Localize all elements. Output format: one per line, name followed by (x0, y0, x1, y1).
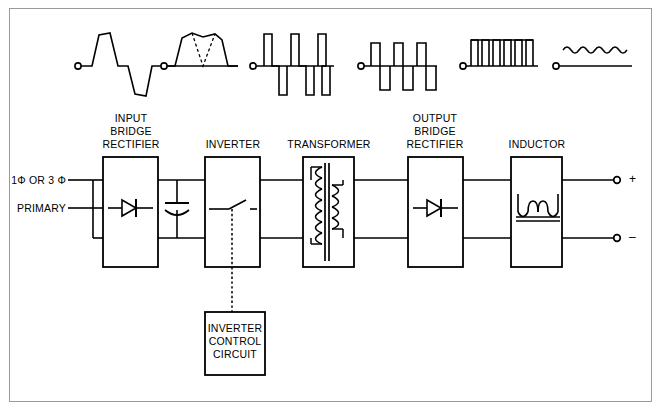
wf-rectified-icon (161, 33, 238, 69)
wf-unipolar-pulses-icon (460, 40, 538, 69)
rectifier-to-inductor-wires (463, 180, 511, 238)
negative-terminal-label: – (629, 231, 649, 243)
transformer-to-output-wires (354, 180, 408, 238)
inverter-label: INVERTER (192, 138, 274, 150)
transformer-block (303, 157, 354, 267)
inverter-control-label-line3: CIRCUIT (205, 348, 265, 360)
input-bridge-rectifier-label-line1: INPUT (90, 112, 172, 124)
input-bridge-rectifier-label-line3: RECTIFIER (90, 138, 172, 150)
inverter-control-label-line1: INVERTER (205, 322, 265, 334)
output-bridge-rectifier-label-line1: OUTPUT (394, 112, 476, 124)
output-terminal-wires (562, 177, 620, 242)
wf-sine-icon (75, 33, 163, 96)
inverter-block (205, 157, 260, 267)
wf-pwm-wide-icon (358, 43, 437, 90)
inductor-label: INDUCTOR (496, 138, 578, 150)
wf-dc-ripple-icon (553, 47, 632, 69)
wf-pwm-narrow-icon (250, 34, 334, 95)
dc-bus-capacitor-section (158, 180, 205, 238)
input-primary-label: PRIMARY (0, 202, 66, 214)
inverter-to-transformer-wires (260, 180, 303, 238)
positive-terminal-label: + (629, 173, 649, 185)
inductor-block (511, 157, 562, 267)
diagram-canvas (0, 0, 661, 412)
output-bridge-rectifier-label-line2: BRIDGE (394, 125, 476, 137)
transformer-label: TRANSFORMER (279, 138, 379, 150)
output-bridge-rectifier-block (408, 157, 463, 267)
input-bridge-rectifier-block (103, 157, 158, 267)
output-bridge-rectifier-label-line3: RECTIFIER (394, 138, 476, 150)
inverter-control-label-line2: CONTROL (205, 335, 265, 347)
input-phase-label: 1Φ OR 3 Φ (0, 174, 66, 186)
input-bridge-rectifier-label-line2: BRIDGE (90, 125, 172, 137)
diagram-page: 1Φ OR 3 Φ PRIMARY INPUT BRIDGE RECTIFIER… (0, 0, 661, 412)
dc-bus-filter-capacitor-icon (165, 180, 189, 238)
input-supply-lines (68, 180, 103, 238)
